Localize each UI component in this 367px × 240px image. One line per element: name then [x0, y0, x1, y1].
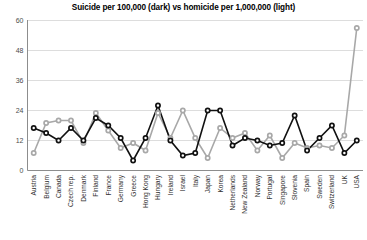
x-axis-tick-group: Hungary	[154, 174, 162, 200]
x-axis-tick-label: Canada	[55, 175, 62, 198]
data-point-dark	[69, 126, 73, 130]
x-axis-tick-label: Korea	[217, 175, 224, 193]
data-point-light	[355, 26, 359, 30]
y-axis-tick-label: 24	[16, 107, 24, 114]
x-axis-tick-group: Austria	[30, 175, 37, 196]
data-point-dark	[293, 113, 297, 117]
data-point-dark	[305, 148, 309, 152]
x-axis-tick-group: Italy	[192, 174, 200, 187]
x-axis-tick-group: Denmark	[80, 174, 87, 201]
x-axis-tick-label: Sweden	[316, 175, 323, 199]
x-axis-tick-label: Hong Kong	[142, 175, 150, 208]
x-axis-tick-group: Finland	[92, 175, 99, 197]
x-axis-tick-group: Ireland	[167, 175, 174, 195]
data-point-light	[94, 111, 98, 115]
line-chart-plot: 01224364860AustriaBelgiumCanadaCzech rep…	[0, 0, 367, 240]
data-point-dark	[94, 116, 98, 120]
x-axis-tick-label: USA	[353, 174, 360, 188]
x-axis-tick-label: Ireland	[167, 175, 174, 195]
data-point-light	[32, 151, 36, 155]
data-point-dark	[156, 103, 160, 107]
data-point-light	[193, 136, 197, 140]
y-axis-tick-label: 36	[16, 77, 24, 84]
data-point-dark	[32, 126, 36, 130]
data-point-dark	[143, 136, 147, 140]
data-point-dark	[131, 158, 135, 162]
data-point-dark	[193, 151, 197, 155]
data-point-dark	[181, 153, 185, 157]
data-point-light	[56, 118, 60, 122]
data-point-light	[255, 148, 259, 152]
x-axis-tick-label: Slovenia	[291, 175, 298, 201]
y-axis-tick-label: 12	[16, 137, 24, 144]
x-axis-tick-label: New Zealand	[241, 175, 248, 214]
x-axis-tick-label: Finland	[92, 175, 99, 197]
data-point-dark	[119, 136, 123, 140]
data-point-dark	[317, 136, 321, 140]
data-point-dark	[330, 123, 334, 127]
x-axis-tick-group: Belgium	[43, 174, 51, 198]
x-axis-tick-label: Portugal	[266, 174, 274, 199]
x-axis-tick-label: Czech rep.	[67, 175, 75, 207]
data-point-light	[119, 146, 123, 150]
x-axis-tick-group: Israel	[179, 174, 186, 191]
x-axis-tick-group: UK	[341, 174, 348, 184]
x-axis-tick-label: Belgium	[43, 174, 51, 198]
chart-container: Suicide per 100,000 (dark) vs homicide p…	[0, 0, 367, 240]
x-axis-tick-group: Netherlands	[229, 174, 236, 210]
data-point-light	[280, 156, 284, 160]
data-point-light	[293, 141, 297, 145]
data-point-light	[243, 131, 247, 135]
x-axis-tick-label: Germany	[117, 174, 125, 202]
x-axis-tick-label: Switzerland	[328, 175, 335, 209]
x-axis-tick-group: Canada	[55, 175, 62, 198]
data-point-light	[206, 156, 210, 160]
x-axis-tick-group: Korea	[217, 175, 224, 193]
y-axis-tick-label: 0	[20, 167, 24, 174]
x-axis-tick-group: Singapore	[279, 175, 287, 205]
x-axis-tick-label: Netherlands	[229, 174, 236, 210]
x-axis-tick-group: Hong Kong	[142, 175, 150, 208]
data-point-dark	[168, 138, 172, 142]
x-axis-tick-group: Slovenia	[291, 175, 298, 201]
y-axis-tick-label: 60	[16, 17, 24, 24]
data-point-light	[69, 118, 73, 122]
x-axis-tick-group: Portugal	[266, 174, 274, 199]
x-axis-tick-group: Germany	[117, 174, 125, 202]
x-axis-tick-label: Hungary	[154, 174, 162, 200]
x-axis-tick-group: Japan	[204, 175, 212, 193]
data-point-dark	[44, 131, 48, 135]
x-axis-tick-group: France	[105, 175, 112, 196]
x-axis-tick-label: Austria	[30, 175, 37, 196]
data-point-light	[156, 111, 160, 115]
x-axis-tick-label: Greece	[130, 175, 137, 197]
x-axis-tick-label: Israel	[179, 174, 186, 191]
x-axis-tick-group: New Zealand	[241, 175, 248, 214]
x-axis-tick-label: Japan	[204, 175, 212, 193]
data-point-light	[268, 133, 272, 137]
data-point-dark	[56, 138, 60, 142]
data-point-light	[131, 141, 135, 145]
data-point-light	[342, 133, 346, 137]
data-point-light	[106, 128, 110, 132]
data-point-light	[330, 146, 334, 150]
x-axis-tick-group: USA	[353, 174, 360, 188]
data-point-light	[218, 126, 222, 130]
y-axis-tick-label: 48	[16, 47, 24, 54]
data-point-dark	[81, 138, 85, 142]
x-axis-tick-group: Czech rep.	[67, 175, 75, 207]
data-point-light	[181, 108, 185, 112]
x-axis-tick-group: Sweden	[316, 175, 323, 199]
data-point-dark	[355, 138, 359, 142]
data-point-dark	[218, 108, 222, 112]
data-point-light	[143, 148, 147, 152]
x-axis-tick-label: Italy	[192, 174, 200, 187]
x-axis-tick-group: Norway	[254, 174, 262, 197]
x-axis-tick-label: Spain	[303, 175, 311, 192]
data-point-dark	[342, 151, 346, 155]
data-point-light	[44, 121, 48, 125]
data-point-light	[230, 136, 234, 140]
x-axis-tick-group: Greece	[130, 175, 137, 197]
x-axis-tick-label: Denmark	[80, 174, 87, 201]
data-point-dark	[255, 138, 259, 142]
